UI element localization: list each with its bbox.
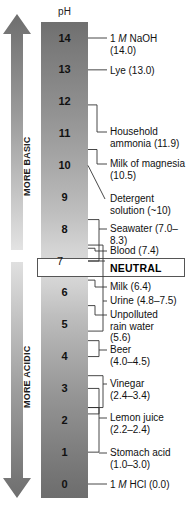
- callout-seawater: Seawater (7.0–8.3): [110, 223, 192, 246]
- ph-tick-13: 13: [41, 64, 88, 75]
- ph-tick-9: 9: [41, 192, 88, 203]
- direction-arrows: MORE BASIC MORE ACIDIC: [1, 0, 33, 506]
- ph-tick-14: 14: [41, 33, 88, 44]
- neutral-label: NEUTRAL: [110, 262, 162, 274]
- callout-rainwater-line2: rain water(5.6): [110, 321, 154, 344]
- ph-tick-8: 8: [41, 224, 88, 235]
- callout-rainwater-line1: Unpolluted: [110, 309, 158, 320]
- callout-ammonia: Householdammonia (11.9): [110, 126, 192, 149]
- callout-milk-line1: Milk (6.4): [110, 281, 151, 292]
- callout-ammonia-line2: ammonia (11.9): [110, 138, 179, 149]
- callout-hcl: 1 M HCl (0.0): [110, 479, 192, 491]
- arrows-svg: [1, 0, 33, 506]
- callout-blood-line1: Blood (7.4): [110, 245, 159, 256]
- callout-magnesia-line2: (10.5): [110, 170, 136, 181]
- ph-tick-12: 12: [41, 96, 88, 107]
- ph-tick-10: 10: [41, 160, 88, 171]
- callout-hcl-line1: 1 M HCl (0.0): [110, 479, 169, 490]
- callout-lemon-line2: (2.2–2.4): [110, 424, 150, 435]
- callout-stomach: Stomach acid(1.0–3.0): [110, 447, 192, 470]
- callout-blood: Blood (7.4): [110, 245, 192, 257]
- callout-magnesia-line1: Milk of magnesia: [110, 158, 185, 169]
- callout-vinegar-line1: Vinegar: [110, 378, 144, 389]
- callout-urine: Urine (4.8–7.5): [110, 295, 192, 307]
- callout-milk: Milk (6.4): [110, 281, 192, 293]
- callout-ammonia-line1: Household: [110, 126, 158, 137]
- more-basic-label: MORE BASIC: [22, 136, 32, 196]
- callout-detergent-line1: Detergent: [110, 193, 154, 204]
- more-acidic-label: MORE ACIDIC: [22, 346, 32, 408]
- ph-tick-1: 1: [41, 447, 88, 458]
- callout-naoh: 1 M NaOH(14.0): [110, 33, 192, 56]
- callout-lye: Lye (13.0): [110, 65, 192, 77]
- callout-lemon-line1: Lemon juice: [110, 412, 164, 423]
- callout-lye-line1: Lye (13.0): [110, 65, 155, 76]
- ph-tick-4: 4: [41, 351, 88, 362]
- ph-scale-diagram: MORE BASIC MORE ACIDIC pH NEUTRAL 141312…: [0, 0, 192, 506]
- callout-rainwater: Unpollutedrain water(5.6): [110, 309, 192, 344]
- callout-stomach-line2: (1.0–3.0): [110, 459, 150, 470]
- ph-tick-0: 0: [41, 479, 88, 490]
- more-basic-arrow-shape: [3, 14, 31, 250]
- callout-vinegar: Vinegar(2.4–3.4): [110, 378, 192, 401]
- callout-beer: Beer(4.0–4.5): [110, 344, 192, 367]
- callout-stomach-line1: Stomach acid: [110, 447, 171, 458]
- callout-beer-line1: Beer: [110, 344, 131, 355]
- ph-tick-5: 5: [41, 319, 88, 330]
- ph-tick-7: 7: [38, 256, 82, 267]
- callout-lemon: Lemon juice(2.2–2.4): [110, 412, 192, 435]
- ph-tick-6: 6: [41, 287, 88, 298]
- callout-detergent-line2: solution (~10): [110, 205, 171, 216]
- ph-tick-3: 3: [41, 383, 88, 394]
- ph-tick-2: 2: [41, 415, 88, 426]
- callout-detergent: Detergentsolution (~10): [110, 193, 192, 216]
- callout-urine-line1: Urine (4.8–7.5): [110, 295, 177, 306]
- callout-seawater-line1: Seawater (7.0–8.3): [110, 223, 178, 246]
- callout-naoh-line1: 1 M NaOH: [110, 33, 157, 44]
- callout-beer-line2: (4.0–4.5): [110, 356, 150, 367]
- callout-vinegar-line2: (2.4–3.4): [110, 390, 150, 401]
- callout-naoh-line2: (14.0): [110, 45, 136, 56]
- callout-magnesia: Milk of magnesia(10.5): [110, 158, 192, 181]
- ph-axis-header: pH: [41, 6, 88, 17]
- ph-tick-11: 11: [41, 128, 88, 139]
